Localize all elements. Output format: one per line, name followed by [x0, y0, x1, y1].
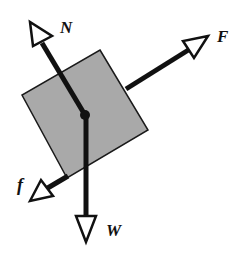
free-body-diagram: N F f W [0, 0, 245, 253]
force-arrow-F [126, 36, 208, 89]
label-F: F [216, 27, 229, 46]
center-of-mass-dot [80, 110, 90, 120]
label-W: W [106, 221, 123, 240]
label-f: f [17, 175, 25, 195]
force-arrow-f [30, 176, 68, 201]
diagram-svg: N F f W [0, 0, 245, 253]
label-N: N [59, 18, 73, 37]
